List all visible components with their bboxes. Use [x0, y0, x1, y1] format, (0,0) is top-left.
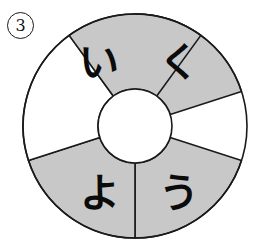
segment-lower-right-character: う — [159, 170, 199, 216]
segmented-ring-wheel: くうよい — [0, 0, 258, 246]
segment-upper-left-character: い — [79, 39, 119, 85]
puzzle-canvas: 3 くうよい — [0, 0, 258, 246]
segment-lower-left-character: よ — [80, 170, 120, 216]
wheel-inner-hub-circle — [98, 89, 172, 163]
segment-upper-right-character: く — [159, 39, 199, 85]
